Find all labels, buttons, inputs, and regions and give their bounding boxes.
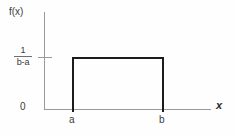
fraction-denominator: b-a bbox=[10, 58, 36, 67]
y-axis-label: f(x) bbox=[9, 6, 23, 17]
x-axis-label: x bbox=[216, 99, 222, 111]
uniform-distribution-chart: f(x) x 0 1 b-a a b bbox=[0, 0, 236, 135]
y-axis-line bbox=[44, 12, 45, 110]
y-axis-tick-density-height bbox=[38, 57, 52, 58]
y-axis-tick-label-density-height: 1 b-a bbox=[10, 46, 36, 68]
uniform-density-rectangle bbox=[72, 57, 164, 112]
x-axis-tick-label-b: b bbox=[159, 114, 165, 125]
y-axis-tick-label-zero: 0 bbox=[20, 101, 26, 112]
x-axis-tick-label-a: a bbox=[69, 114, 75, 125]
fraction-numerator: 1 bbox=[10, 46, 36, 55]
